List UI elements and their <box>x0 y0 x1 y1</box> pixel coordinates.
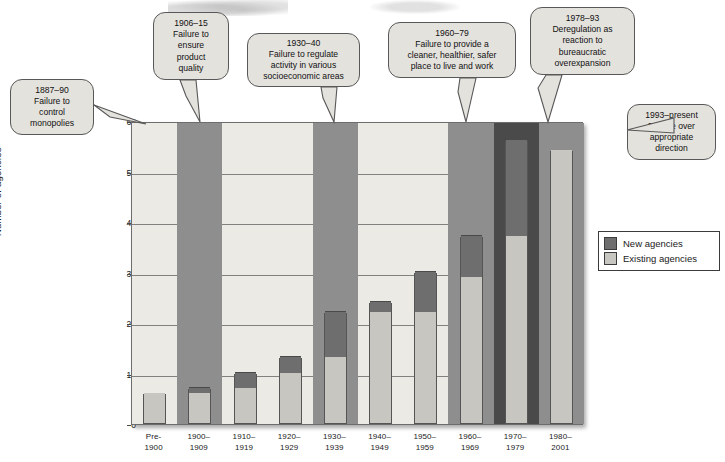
gridline-10-0 <box>132 376 177 377</box>
bar-segment-new-8 <box>506 139 527 236</box>
callout-line: appropriate <box>645 132 698 143</box>
callout-text: 1960–79Failure to provide acleaner, heal… <box>408 28 497 73</box>
x-tick-line: 1920– <box>267 432 312 443</box>
callout-line: 1906–15 <box>173 18 209 29</box>
leader-arrow-1960 <box>458 78 476 122</box>
x-tick-line: 1949 <box>357 443 402 454</box>
x-tick-label-6: 1950–1959 <box>402 432 447 453</box>
callout-line: socioeconomic areas <box>263 71 344 82</box>
bar-segment-existing-7 <box>461 277 482 423</box>
gridline-20-2 <box>222 325 312 326</box>
x-tick-line: 1969 <box>447 443 492 454</box>
x-tick-label-3: 1920–1929 <box>267 432 312 453</box>
x-tick-line: 1979 <box>493 443 538 454</box>
gridline-40-0 <box>132 224 177 225</box>
callout-line: ensure <box>173 40 209 51</box>
callout-line: bureaucratic <box>552 47 612 58</box>
x-tick-line: 1959 <box>402 443 447 454</box>
x-tick-line: 1909 <box>176 443 221 454</box>
x-tick-label-2: 1910–1919 <box>221 432 266 453</box>
bar-5 <box>369 303 392 424</box>
bar-segment-existing-9 <box>551 150 572 423</box>
bar-4 <box>324 313 347 424</box>
callout-line: direction <box>645 143 698 154</box>
callout-line: 1960–79 <box>408 28 497 39</box>
bar-segment-new-6 <box>415 271 436 312</box>
x-tick-label-5: 1940–1949 <box>357 432 402 453</box>
bar-3 <box>279 358 302 424</box>
bar-segment-existing-2 <box>235 388 256 423</box>
bar-segment-new-5 <box>370 301 391 312</box>
y-axis-title: Number of agencies <box>0 66 3 236</box>
x-tick-line: 1970– <box>493 432 538 443</box>
bar-segment-new-4 <box>325 311 346 357</box>
callout-line: 1930–40 <box>263 38 344 49</box>
x-tick-line: 2001 <box>538 443 583 454</box>
callout-line: 1978–93 <box>552 13 612 24</box>
callout-line: control <box>30 107 74 118</box>
x-tick-label-9: 1980–2001 <box>538 432 583 453</box>
callout-line: Failure to <box>30 96 74 107</box>
legend-item-existing: Existing agencies <box>604 251 714 266</box>
bar-segment-existing-4 <box>325 357 346 423</box>
callout-line: Failure to <box>173 29 209 40</box>
callout-line: Failure to regulate <box>263 49 344 60</box>
legend-label-new: New agencies <box>623 238 683 249</box>
bar-segment-existing-8 <box>506 236 527 423</box>
bar-segment-existing-1 <box>189 393 210 423</box>
x-tick-line: 1930– <box>312 432 357 443</box>
bar-segment-new-3 <box>280 356 301 372</box>
callout-line: activity in various <box>263 60 344 71</box>
x-tick-line: Pre- <box>131 432 176 443</box>
gridline-20-0 <box>132 325 177 326</box>
era-band-1 <box>177 123 222 424</box>
callout-line: cleaner, healthier, safer <box>408 50 497 61</box>
callout-text: 1887–90Failure tocontrolmonopolies <box>30 85 74 130</box>
x-tick-line: 1900– <box>176 432 221 443</box>
callout-line: reaction to <box>552 35 612 46</box>
gridline-50-4 <box>358 174 448 175</box>
x-tick-line: 1980– <box>538 432 583 443</box>
bar-1 <box>188 389 211 424</box>
callout-line: product <box>173 52 209 63</box>
callout-line: quality <box>173 63 209 74</box>
bar-segment-new-2 <box>235 372 256 388</box>
leader-arrow-1930 <box>321 87 337 122</box>
x-tick-line: 1939 <box>312 443 357 454</box>
callout-1930-40: 1930–40Failure to regulateactivity in va… <box>247 33 360 87</box>
bar-segment-new-7 <box>461 235 482 276</box>
callout-line: 1887–90 <box>30 85 74 96</box>
scan-smudge-top-right <box>370 0 460 14</box>
gridline-50-2 <box>222 174 312 175</box>
callout-line: Failure to provide a <box>408 39 497 50</box>
callout-1960-79: 1960–79Failure to provide acleaner, heal… <box>388 22 516 78</box>
callout-1993-present: 1993–presentDebate overappropriatedirect… <box>627 104 716 160</box>
legend-swatch-new <box>604 237 617 250</box>
callout-line: monopolies <box>30 118 74 129</box>
bar-8 <box>505 141 528 424</box>
legend-swatch-existing <box>604 252 617 265</box>
callout-line: place to live and work <box>408 61 497 72</box>
callout-1978-93: 1978–93Deregulation asreaction tobureauc… <box>530 7 635 75</box>
era-band-0 <box>132 123 177 424</box>
callout-text: 1993–presentDebate overappropriatedirect… <box>645 110 698 155</box>
callout-line: Debate over <box>645 121 698 132</box>
x-tick-label-4: 1930–1939 <box>312 432 357 453</box>
chart-plot-area <box>131 122 583 425</box>
callout-1906-15: 1906–15Failure toensureproductquality <box>153 12 229 80</box>
legend-label-existing: Existing agencies <box>623 253 697 264</box>
x-tick-label-1: 1900–1909 <box>176 432 221 453</box>
x-tick-line: 1919 <box>221 443 266 454</box>
x-tick-line: 1950– <box>402 432 447 443</box>
bar-segment-existing-0 <box>144 393 165 423</box>
x-tick-line: 1940– <box>357 432 402 443</box>
callout-text: 1906–15Failure toensureproductquality <box>173 18 209 74</box>
leader-arrow-1978 <box>538 75 562 122</box>
gridline-50-0 <box>132 174 177 175</box>
callout-line: 1993–present <box>645 110 698 121</box>
x-tick-line: 1910– <box>221 432 266 443</box>
callout-1887-90: 1887–90Failure tocontrolmonopolies <box>10 79 94 135</box>
x-tick-label-0: Pre-1900 <box>131 432 176 453</box>
bar-segment-existing-6 <box>415 312 436 423</box>
bar-segment-existing-5 <box>370 312 391 423</box>
